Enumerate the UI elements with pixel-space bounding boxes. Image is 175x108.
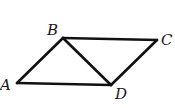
segment-da [17, 83, 111, 85]
label-c: C [161, 31, 173, 49]
label-a: A [0, 76, 11, 94]
parallelogram-diagram: A B C D [0, 0, 175, 108]
diagonal-bd [63, 38, 111, 85]
segment-bc [63, 38, 157, 40]
segment-ab [17, 38, 63, 83]
segment-cd [111, 40, 157, 85]
label-d: D [114, 85, 127, 103]
label-b: B [46, 21, 58, 39]
